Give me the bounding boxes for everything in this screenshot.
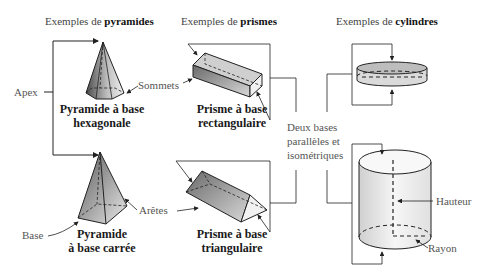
header-bold: prismes (240, 15, 277, 27)
label-line: Pyramide (52, 227, 152, 241)
solids-diagram: Exemples de pyramides Exemples de prisme… (0, 0, 488, 278)
label-line: parallèles et (287, 134, 343, 148)
header-prefix: Exemples de (336, 15, 395, 27)
triangular-prism-shape (186, 171, 267, 222)
header-prefix: Exemples de (181, 15, 240, 27)
label-line: Deux bases (287, 120, 343, 134)
label-rayon: Rayon (428, 243, 457, 254)
label-line: rectangulaire (187, 116, 277, 130)
label-pyramide-hexagonale: Pyramide à base hexagonale (52, 102, 152, 130)
header-prismes: Exemples de prismes (181, 16, 277, 27)
label-line: Prisme à base (187, 102, 277, 116)
label-apex: Apex (14, 87, 38, 98)
square-pyramid-shape (78, 152, 127, 224)
header-bold: pyramides (104, 15, 154, 27)
label-base: Base (22, 230, 43, 241)
header-cylindres: Exemples de cylindres (336, 16, 438, 27)
label-pyramide-carree: Pyramide à base carrée (52, 227, 152, 255)
label-line: isométriques (287, 148, 343, 162)
label-prisme-rectangulaire: Prisme à base rectangulaire (187, 102, 277, 130)
label-line: hexagonale (52, 116, 152, 130)
rectangular-prism-shape (193, 53, 262, 97)
label-prisme-triangulaire: Prisme à base triangulaire (187, 227, 277, 255)
label-line: Pyramide à base (52, 102, 152, 116)
label-hauteur: Hauteur (436, 196, 471, 207)
label-line: Prisme à base (187, 227, 277, 241)
hexagonal-pyramid-shape (86, 42, 124, 99)
header-prefix: Exemples de (45, 15, 104, 27)
label-line: triangulaire (187, 241, 277, 255)
header-bold: cylindres (395, 15, 438, 27)
tall-cylinder-shape (359, 150, 431, 249)
label-deux-bases: Deux bases parallèles et isométriques (287, 120, 343, 162)
header-pyramides: Exemples de pyramides (45, 16, 154, 27)
label-aretes: Arêtes (139, 205, 168, 216)
label-line: à base carrée (52, 241, 152, 255)
apex-connector (44, 41, 98, 155)
short-cylinder-shape (357, 62, 427, 86)
label-sommets: Sommets (138, 80, 179, 91)
